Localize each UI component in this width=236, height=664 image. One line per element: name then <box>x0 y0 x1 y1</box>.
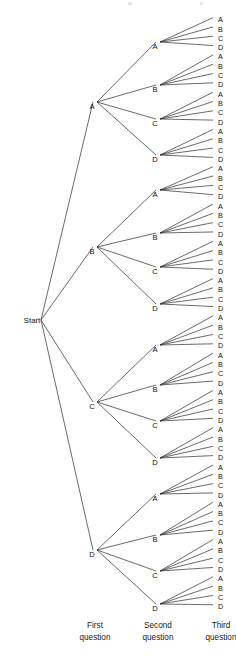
edge-l1-to-l2-14 <box>97 550 156 571</box>
edge-l2-to-leaf-2 <box>160 36 213 42</box>
leaf-node-D-59: D <box>218 565 223 574</box>
edge-l2-to-leaf-36 <box>160 353 213 385</box>
leaf-node-A-36: A <box>218 351 223 360</box>
level2-node-B-13: B <box>152 535 157 544</box>
edge-l1-to-l2-11 <box>97 402 156 458</box>
column-axis-labels: FirstquestionSecondquestionThirdquestion <box>80 621 236 642</box>
level2-node-D-3: D <box>152 155 158 164</box>
edge-l2-to-leaf-40 <box>160 390 213 421</box>
leaf-node-A-0: A <box>218 15 223 24</box>
start-node-label: Start <box>24 316 41 325</box>
edge-l2-to-leaf-12 <box>160 129 213 155</box>
level1-node-B-1: B <box>89 247 94 256</box>
leaf-node-C-50: C <box>218 481 223 490</box>
level2-node-C-14: C <box>152 571 158 580</box>
leaf-node-D-43: D <box>218 416 223 425</box>
level1-node-C-2: C <box>89 402 95 411</box>
leaf-node-A-4: A <box>218 52 223 61</box>
edge-l1-to-l2-2 <box>97 102 156 119</box>
edge-l1-to-l2-7 <box>97 247 156 304</box>
leaf-node-B-5: B <box>218 62 223 71</box>
leaf-node-A-56: A <box>218 537 223 546</box>
edge-l1-to-l2-15 <box>97 550 156 604</box>
level2-node-B-1: B <box>152 85 157 94</box>
column-label-3-line1: Third <box>212 621 231 630</box>
leaf-node-C-62: C <box>218 593 223 602</box>
level2-node-A-12: A <box>152 494 158 503</box>
leaf-node-C-54: C <box>218 518 223 527</box>
leaf-node-B-45: B <box>218 435 223 444</box>
edge-l2-to-leaf-41 <box>160 400 213 421</box>
edge-l1-to-l2-4 <box>97 190 156 247</box>
edge-l1-to-l2-10 <box>97 402 156 421</box>
tree-canvas: ABCD ABCDABCDABCDABCD ABCDABCDABCDABCDAB… <box>0 0 236 664</box>
edge-l1-to-l2-5 <box>97 233 156 247</box>
edge-l2-to-leaf-42 <box>160 409 213 421</box>
column-label-3-line2: question <box>206 633 236 642</box>
edge-l2-to-leaf-34 <box>160 334 213 345</box>
edge-l1-to-l2-3 <box>97 102 156 155</box>
edge-l2-to-leaf-4 <box>160 55 213 85</box>
leaf-node-D-51: D <box>218 491 223 500</box>
edge-l2-to-leaf-45 <box>160 437 213 458</box>
level2-node-C-10: C <box>152 421 158 430</box>
edge-root-to-l1-1 <box>41 247 93 320</box>
leaf-node-B-21: B <box>218 211 223 220</box>
leaf-node-C-2: C <box>218 34 223 43</box>
edge-l2-to-leaf-31 <box>160 304 213 307</box>
edge-l2-to-leaf-19 <box>160 190 213 195</box>
level2-node-C-6: C <box>152 267 158 276</box>
edge-l2-to-leaf-9 <box>160 101 213 119</box>
level2-node-A-4: A <box>152 190 158 199</box>
leaf-node-C-38: C <box>218 369 223 378</box>
edge-l2-to-leaf-3 <box>160 42 213 46</box>
leaf-node-C-10: C <box>218 108 223 117</box>
edge-l2-to-leaf-27 <box>160 267 213 269</box>
edge-l2-to-leaf-5 <box>160 64 213 85</box>
edge-l1-to-l2-13 <box>97 535 156 550</box>
leaf-node-B-17: B <box>218 174 223 183</box>
level2-node-B-5: B <box>152 233 157 242</box>
edge-l2-to-leaf-23 <box>160 232 213 233</box>
edge-l2-to-leaf-13 <box>160 139 213 155</box>
edge-l2-to-leaf-0 <box>160 18 213 42</box>
edge-l2-to-leaf-52 <box>160 502 213 535</box>
edges-level1-to-level2 <box>97 42 156 604</box>
leaf-node-D-23: D <box>218 230 223 239</box>
leaf-node-A-60: A <box>218 574 223 583</box>
edges-root-to-level1 <box>41 102 93 550</box>
level2-node-labels: ABCDABCDABCDABCD <box>152 42 158 613</box>
level2-node-A-8: A <box>152 345 158 354</box>
leaf-node-D-19: D <box>218 192 223 201</box>
level1-node-labels: ABCD <box>89 102 95 559</box>
leaf-node-C-22: C <box>218 220 223 229</box>
leaf-node-B-25: B <box>218 248 223 257</box>
edge-l2-to-leaf-44 <box>160 428 213 458</box>
leaf-node-D-39: D <box>218 379 223 388</box>
leaf-node-D-27: D <box>218 267 223 276</box>
leaf-node-B-41: B <box>218 397 223 406</box>
leaf-node-C-58: C <box>218 556 223 565</box>
leaf-node-B-61: B <box>218 584 223 593</box>
edge-l1-to-l2-6 <box>97 247 156 267</box>
leaf-node-B-53: B <box>218 509 223 518</box>
leaf-node-B-49: B <box>218 472 223 481</box>
leaf-node-A-20: A <box>218 202 223 211</box>
leaf-node-B-9: B <box>218 99 223 108</box>
level2-node-A-0: A <box>152 42 158 51</box>
level2-node-D-15: D <box>152 604 158 613</box>
edge-l2-to-leaf-20 <box>160 204 213 233</box>
column-label-1-line2: question <box>80 633 111 642</box>
leaf-node-D-63: D <box>218 602 223 611</box>
leaf-node-A-40: A <box>218 388 223 397</box>
leaf-node-C-30: C <box>218 295 223 304</box>
edge-l2-to-leaf-56 <box>160 540 213 571</box>
leaf-node-D-15: D <box>218 155 223 164</box>
edge-l2-to-leaf-30 <box>160 297 213 304</box>
root-node-label: Start <box>24 316 41 325</box>
edge-l2-to-leaf-61 <box>160 586 213 604</box>
edge-l2-to-leaf-29 <box>160 288 213 304</box>
leaf-node-A-12: A <box>218 127 223 136</box>
edge-l2-to-leaf-15 <box>160 155 213 157</box>
leaf-node-D-7: D <box>218 80 223 89</box>
